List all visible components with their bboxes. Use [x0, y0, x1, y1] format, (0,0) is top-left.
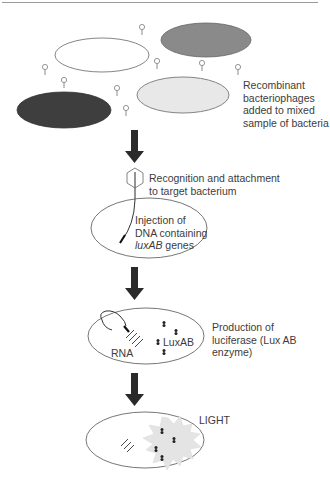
- label-line: sample of bacteria: [243, 117, 329, 130]
- bacterium-light-emission: [86, 412, 204, 470]
- step-4-label: Production of luciferase (Lux AB enzyme): [212, 321, 297, 359]
- label-text: genes: [162, 239, 194, 251]
- bacterium-light: [137, 77, 229, 113]
- label-line: luciferase (Lux AB: [212, 334, 297, 347]
- phage-icon: [123, 105, 128, 116]
- bacteria-mixture: [17, 23, 251, 128]
- step-1-label: Recombinant bacteriophages added to mixe…: [243, 79, 329, 129]
- down-arrow-icon: [125, 373, 144, 406]
- step-3-label: Injection of DNA containing luxAB genes: [135, 214, 207, 252]
- label-line: bacteriophages: [243, 92, 329, 105]
- step-2-label: Recognition and attachment to target bac…: [149, 172, 280, 197]
- phage-icon: [114, 85, 119, 96]
- bacterium-dark: [17, 92, 111, 128]
- light-label: LIGHT: [199, 414, 230, 427]
- label-line: Recognition and attachment: [149, 172, 280, 185]
- phage-icon: [139, 24, 144, 35]
- bacterium-white: [55, 38, 149, 72]
- label-line: to target bacterium: [149, 185, 280, 198]
- label-line: Production of: [212, 321, 297, 334]
- phage-icon: [199, 60, 204, 71]
- down-arrow-icon: [125, 267, 144, 300]
- label-line: luxAB genes: [135, 239, 207, 252]
- phage-icon: [154, 58, 159, 69]
- label-line: Recombinant: [243, 79, 329, 92]
- phage-icon: [61, 77, 66, 88]
- label-line: Injection of: [135, 214, 207, 227]
- gene-name: luxAB: [135, 239, 162, 251]
- bacterium-gray: [161, 23, 251, 57]
- phage-icon: [235, 64, 240, 75]
- label-line: DNA containing: [135, 227, 207, 240]
- phage-icon: [42, 64, 47, 75]
- label-line: enzyme): [212, 346, 297, 359]
- label-line: added to mixed: [243, 104, 329, 117]
- rna-label: RNA: [111, 347, 133, 360]
- down-arrow-icon: [125, 130, 144, 163]
- luxab-label: LuxAB: [163, 336, 194, 349]
